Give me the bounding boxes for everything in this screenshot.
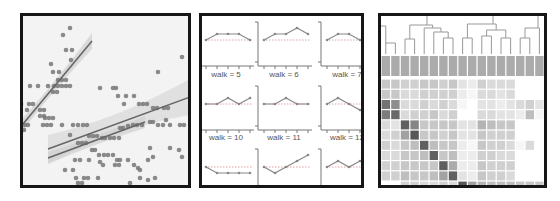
data-point — [146, 178, 151, 183]
data-point — [151, 155, 156, 160]
heatmap-cell — [478, 110, 486, 119]
heatmap-cell — [382, 90, 390, 99]
heatmap-header-cell — [497, 56, 505, 76]
heatmap-cell — [458, 100, 466, 109]
data-point — [57, 70, 62, 75]
heatmap-cell — [526, 110, 534, 119]
data-point — [145, 102, 150, 107]
heatmap-header-cell — [516, 56, 524, 76]
heatmap-cell — [468, 110, 476, 119]
heatmap-cell — [382, 131, 390, 140]
data-point — [47, 116, 52, 121]
data-point — [63, 168, 68, 173]
data-point — [49, 123, 54, 128]
facet-label: walk = 6 — [268, 70, 299, 79]
heatmap-cell — [401, 171, 409, 180]
data-point — [168, 146, 173, 151]
heatmap-cell — [478, 171, 486, 180]
data-point — [113, 163, 118, 168]
heatmap-cell — [401, 161, 409, 170]
heatmap-header-cell — [420, 56, 428, 76]
data-point — [153, 176, 158, 181]
heatmap-cell — [506, 161, 514, 170]
heatmap-cell — [382, 151, 390, 160]
heatmap-cell — [468, 171, 476, 180]
heatmap-cell — [535, 141, 543, 150]
data-point — [28, 84, 33, 89]
heatmap-cell — [526, 151, 534, 160]
heatmap-cell — [487, 161, 495, 170]
data-point — [38, 114, 43, 119]
heatmap-cell — [420, 80, 428, 89]
heatmap-cell — [382, 100, 390, 109]
heatmap-cell — [526, 141, 534, 150]
data-point — [97, 153, 102, 158]
heatmap-cell — [391, 90, 399, 99]
heatmap-cell — [410, 151, 418, 160]
heatmap-cell — [497, 80, 505, 89]
heatmap-cell — [526, 161, 534, 170]
heatmap-cell — [410, 182, 418, 185]
heatmap-cell — [497, 90, 505, 99]
data-point — [161, 123, 166, 128]
heatmap-cell — [439, 80, 447, 89]
data-point — [64, 78, 69, 83]
heatmap-cell — [497, 171, 505, 180]
heatmap-cell — [468, 100, 476, 109]
heatmap-cell — [516, 120, 524, 129]
heatmap-cell — [535, 110, 543, 119]
heatmap-cell — [468, 151, 476, 160]
data-point — [180, 55, 185, 60]
facet-label: walk = 7 — [331, 70, 361, 79]
heatmap-cell — [439, 141, 447, 150]
heatmap-cell — [439, 100, 447, 109]
heatmap-cell — [410, 80, 418, 89]
heatmap-cell — [410, 171, 418, 180]
data-point — [42, 108, 47, 113]
heatmap-cell — [526, 120, 534, 129]
clustered-heatmap-panel — [378, 13, 547, 188]
data-point — [128, 181, 133, 185]
scatter-plot — [23, 16, 188, 185]
heatmap-cell — [478, 131, 486, 140]
data-point — [25, 108, 30, 113]
regression-line — [48, 97, 188, 149]
heatmap-cell — [506, 80, 514, 89]
heatmap-cell — [410, 90, 418, 99]
data-point — [156, 70, 161, 75]
data-point — [132, 94, 137, 99]
data-point — [36, 84, 41, 89]
heatmap-cell — [497, 131, 505, 140]
heatmap-cell — [410, 100, 418, 109]
heatmap-cell — [487, 141, 495, 150]
heatmap-cell — [382, 120, 390, 129]
heatmap-cell — [535, 131, 543, 140]
data-point — [64, 84, 69, 89]
data-point — [49, 62, 54, 67]
data-point — [76, 141, 81, 146]
facet-line-grid-panel: walk = 5walk = 6walk = 7walk = 10walk = … — [199, 13, 364, 188]
heatmap-cell — [382, 171, 390, 180]
data-point — [71, 168, 76, 173]
scatter-regression-panel — [20, 13, 191, 188]
heatmap-cell — [401, 151, 409, 160]
heatmap-cell — [458, 141, 466, 150]
data-point — [60, 123, 65, 128]
data-point — [87, 158, 92, 163]
heatmap-cell — [478, 90, 486, 99]
heatmap-cell — [487, 182, 495, 185]
data-point — [177, 148, 182, 153]
heatmap-cell — [391, 110, 399, 119]
heatmap-cell — [526, 171, 534, 180]
heatmap-cell — [382, 161, 390, 170]
heatmap-cell — [516, 100, 524, 109]
data-point — [78, 158, 83, 163]
heatmap-cell — [391, 80, 399, 89]
heatmap-cell — [468, 182, 476, 185]
heatmap-cell — [535, 171, 543, 180]
heatmap-cell — [449, 80, 457, 89]
data-point — [114, 86, 119, 91]
heatmap-cell — [468, 141, 476, 150]
facet-label: walk = 5 — [210, 70, 241, 79]
heatmap-cell — [420, 182, 428, 185]
